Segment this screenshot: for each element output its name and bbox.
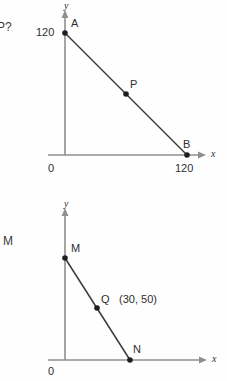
figure-bottom-svg <box>0 190 227 381</box>
point-b-dot <box>184 152 190 158</box>
x-axis-label-bottom: x <box>212 354 216 364</box>
point-p-label: P <box>130 79 137 90</box>
point-q-label: Q <box>101 294 110 305</box>
y-axis-arrow-bottom <box>62 208 69 216</box>
x-axis-label-top: x <box>211 149 215 159</box>
x-tick-label-120: 120 <box>175 163 193 174</box>
point-q-coordinates-annotation: (30, 50) <box>119 294 157 305</box>
point-a-label: A <box>71 18 78 29</box>
y-axis-label-bottom: y <box>64 199 68 209</box>
y-axis-label-top: y <box>64 1 68 11</box>
x-axis-arrow-top <box>198 152 206 159</box>
figure-top-coordinate-plane: y x A P B 120 120 0 P? <box>0 0 227 190</box>
point-p-dot <box>123 91 129 97</box>
point-n-dot <box>127 357 133 363</box>
y-tick-label-120: 120 <box>36 27 54 38</box>
point-n-label: N <box>133 344 141 355</box>
cut-text-fragment-bottom-left: M <box>3 235 13 247</box>
origin-label-top: 0 <box>48 163 54 174</box>
figure-bottom-coordinate-plane: y x M Q N (30, 50) 0 M <box>0 190 227 381</box>
point-m-label: M <box>71 243 80 254</box>
y-axis-arrow-top <box>62 10 69 18</box>
point-b-label: B <box>183 139 190 150</box>
point-q-dot <box>94 305 100 311</box>
point-m-dot <box>62 255 68 261</box>
x-axis-arrow-bottom <box>199 357 207 364</box>
origin-label-bottom: 0 <box>48 366 54 377</box>
point-a-dot <box>62 30 68 36</box>
cut-text-fragment-top-left: P? <box>0 21 12 33</box>
